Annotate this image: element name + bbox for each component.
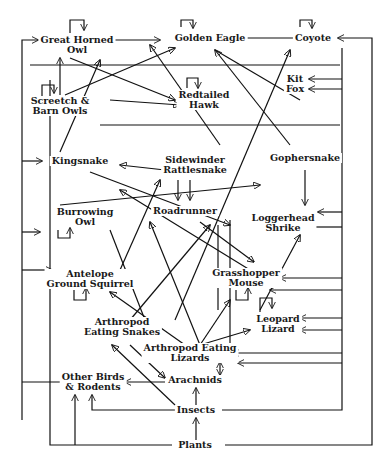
node-redtailed-hawk: Redtailed Hawk (176, 90, 231, 110)
node-coyote: Coyote (293, 33, 333, 43)
edge-screetch-hawk (110, 100, 180, 105)
node-insects: Insects (175, 405, 217, 415)
loop-mouse (236, 288, 248, 300)
edge-sidewinder-kingsnake (120, 165, 165, 170)
node-great-horned-owl: Great Horned Owl (39, 35, 116, 55)
node-leopard-lizard: Leopard Lizard (254, 314, 302, 334)
node-golden-eagle: Golden Eagle (173, 33, 248, 43)
node-arachnids: Arachnids (166, 375, 224, 385)
edge-lizards-mouse (200, 300, 230, 345)
node-loggerhead-shrike: Loggerhead Shrike (249, 213, 316, 233)
loop-owl (70, 20, 84, 33)
edge-screetch-eagle (65, 48, 175, 95)
edge-burrowing-gopher (60, 185, 260, 205)
node-antelope-ground-squirrel: Antelope Ground Squirrel (45, 269, 136, 289)
loop-burrowing (58, 228, 70, 238)
node-arthropod-eating-lizards: Arthropod Eating Lizards (142, 343, 239, 363)
loop-leopard (260, 298, 272, 312)
node-plants: Plants (176, 440, 214, 450)
loop-eagle (181, 20, 193, 28)
node-burrowing-owl: Burrowing Owl (55, 207, 116, 227)
node-arthropod-eating-snakes: Arthropod Eating Snakes (82, 317, 162, 337)
node-kingsnake: Kingsnake (50, 156, 110, 166)
loop-squirrel (74, 288, 86, 300)
node-kit-fox: Kit Fox (284, 74, 306, 94)
node-roadrunner: Roadrunner (151, 206, 219, 216)
node-gophersnake: Gophersnake (268, 153, 342, 163)
loop-hawk (187, 78, 198, 88)
node-other-birds-rodents: Other Birds & Rodents (60, 372, 127, 392)
node-grasshopper-mouse: Grasshopper Mouse (210, 268, 282, 288)
food-web-diagram (0, 0, 387, 465)
node-screetch-barn-owls: Screetch & Barn Owls (29, 96, 92, 116)
edge-left-owl (22, 40, 38, 45)
node-sidewinder-rattlesnake: Sidewinder Rattlesnake (161, 155, 229, 175)
loop-coyote (300, 20, 312, 28)
